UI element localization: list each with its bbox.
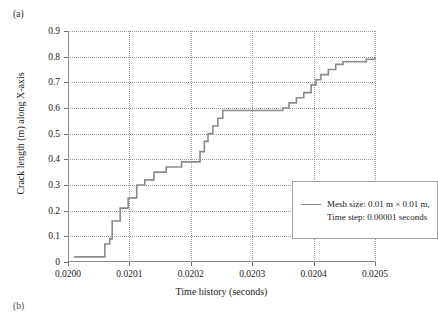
x-tick-label: 0.0202 bbox=[178, 269, 204, 279]
x-tick-label: 0.0205 bbox=[362, 269, 388, 279]
x-tick-label: 0.0200 bbox=[55, 269, 81, 279]
x-tick-label: 0.0204 bbox=[301, 269, 327, 279]
x-tick-label: 0.0201 bbox=[116, 269, 142, 279]
x-tick-label: 0.0203 bbox=[239, 269, 265, 279]
